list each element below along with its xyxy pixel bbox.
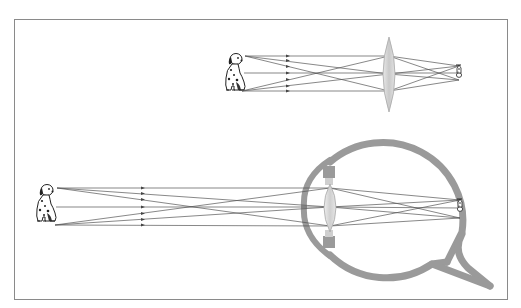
eye-lens-icon [324,184,336,232]
arrow-icons-top [286,55,290,93]
light-rays-bottom [55,188,460,226]
arrow-icons-bottom [141,187,145,227]
dog-icon [226,54,245,91]
light-rays-top [242,56,459,91]
dog-icon [37,185,56,222]
lens-icon [383,37,395,112]
panel-bottom-eye [37,143,490,286]
panel-top-lens [226,37,462,112]
diagram-canvas [0,0,521,308]
